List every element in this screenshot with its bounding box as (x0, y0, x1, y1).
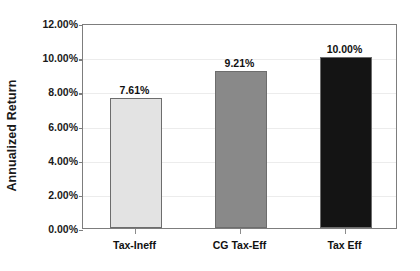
y-axis-tick-label: 0.00% (26, 224, 78, 235)
y-axis-tick-mark (79, 59, 83, 60)
y-axis-tick-mark (79, 230, 83, 231)
x-axis-tick-label: Tax Eff (292, 240, 397, 251)
y-axis-tick-label: 2.00% (26, 190, 78, 201)
y-axis-tick-label: 12.00% (26, 19, 78, 30)
y-axis-tick-mark (79, 162, 83, 163)
x-axis-tick-label: CG Tax-Eff (187, 240, 292, 251)
bar-tax-eff (320, 57, 372, 228)
x-axis-tick-mark (135, 229, 136, 234)
y-axis-tick-label: 6.00% (26, 121, 78, 132)
y-axis-tick-labels: 12.00%10.00%8.00%6.00%4.00%2.00%0.00% (22, 0, 78, 271)
y-axis-tick-mark (79, 25, 83, 26)
bar-tax-ineff (110, 98, 162, 228)
x-axis-tick-label: Tax-Ineff (82, 240, 187, 251)
y-axis-tick-mark (79, 128, 83, 129)
x-axis-tick-mark (345, 229, 346, 234)
y-axis-tick-label: 4.00% (26, 155, 78, 166)
y-axis-tick-label: 8.00% (26, 87, 78, 98)
bar-value-label: 10.00% (305, 44, 385, 55)
x-axis-tick-mark (240, 229, 241, 234)
y-axis-title: Annualized Return (0, 0, 24, 271)
bar-cg-tax-eff (215, 71, 267, 228)
y-axis-tick-mark (79, 196, 83, 197)
y-axis-tick-label: 10.00% (26, 53, 78, 64)
bar-value-label: 9.21% (200, 58, 280, 69)
bar-value-label: 7.61% (95, 85, 175, 96)
bar-chart: Annualized Return 12.00%10.00%8.00%6.00%… (0, 0, 420, 271)
y-axis-tick-mark (79, 93, 83, 94)
